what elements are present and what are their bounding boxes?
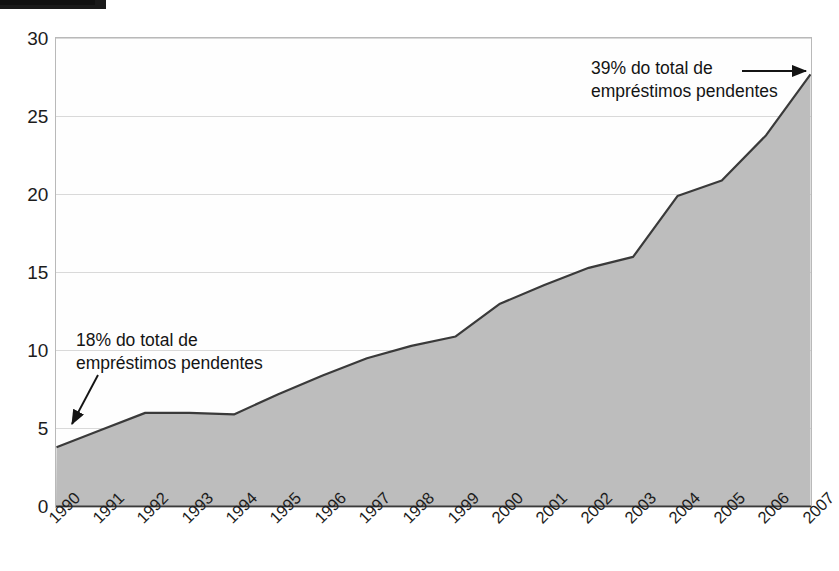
x-tick-label: 1994: [222, 489, 261, 528]
x-tick-label: 2001: [532, 489, 571, 528]
x-tick-label: 1999: [444, 489, 483, 528]
x-tick-label: 2004: [665, 489, 704, 528]
annotation-right: 39% do total de empréstimos pendentes: [591, 57, 778, 103]
x-tick-label: 2007: [799, 489, 838, 528]
x-tick-label: 1992: [133, 489, 172, 528]
x-tick-label: 1997: [355, 489, 394, 528]
annotation-right-line2: empréstimos pendentes: [591, 80, 778, 103]
annotation-left-line2: empréstimos pendentes: [76, 352, 263, 375]
x-tick-label: 1990: [45, 489, 84, 528]
x-tick-label: 1991: [89, 489, 128, 528]
x-tick-label: 2000: [488, 489, 527, 528]
annotation-left-line1: 18% do total de: [76, 329, 263, 352]
x-tick-label: 1993: [178, 489, 217, 528]
x-tick-label: 2002: [577, 489, 616, 528]
figure-root: 302520151050 199019911992199319941995199…: [0, 0, 839, 571]
x-tick-label: 1995: [266, 489, 305, 528]
x-tick-label: 2003: [621, 489, 660, 528]
annotation-left: 18% do total de empréstimos pendentes: [76, 329, 263, 375]
annotation-right-line1: 39% do total de: [591, 57, 778, 80]
x-tick-label: 2006: [754, 489, 793, 528]
x-tick-label: 2005: [710, 489, 749, 528]
x-tick-label: 1998: [399, 489, 438, 528]
x-tick-label: 1996: [311, 489, 350, 528]
